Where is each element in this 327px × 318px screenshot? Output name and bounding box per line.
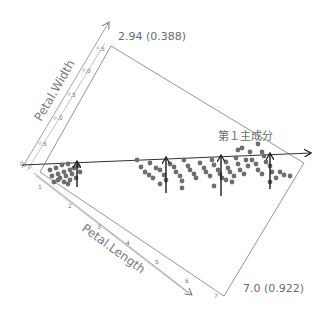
data-point xyxy=(224,178,229,183)
data-point xyxy=(78,170,83,175)
data-point xyxy=(208,174,213,179)
data-point xyxy=(180,179,185,184)
data-point xyxy=(66,182,71,187)
data-point xyxy=(264,160,269,165)
data-point xyxy=(174,170,179,175)
data-point xyxy=(48,168,53,173)
tick-label: 4 xyxy=(126,239,130,246)
petal-width-axis: 0 .5 .0 .5 .0 .5 Petal.Width xyxy=(20,22,109,171)
data-point xyxy=(60,163,65,168)
data-point xyxy=(70,172,75,177)
tick-label: 2 xyxy=(68,202,72,209)
data-points xyxy=(48,142,293,191)
data-point xyxy=(66,162,71,167)
data-point xyxy=(274,176,279,181)
data-point xyxy=(188,168,193,173)
data-point xyxy=(212,163,217,168)
data-point xyxy=(282,173,287,178)
data-point xyxy=(148,161,153,166)
data-point xyxy=(178,174,183,179)
data-point xyxy=(228,170,233,175)
data-point xyxy=(234,156,239,161)
petal-width-loading-label: 2.94 (0.388) xyxy=(118,30,186,43)
tick-label: .0 xyxy=(57,114,63,121)
data-point xyxy=(288,174,293,179)
tick-label: 1 xyxy=(38,183,42,190)
data-point xyxy=(64,174,69,179)
data-point xyxy=(210,158,215,163)
data-point xyxy=(182,158,187,163)
data-point xyxy=(244,158,249,163)
data-point xyxy=(50,174,55,179)
projection-arrows xyxy=(77,153,270,196)
tick-label: .5 xyxy=(70,91,76,98)
data-point xyxy=(198,161,203,166)
petal-length-axis-label: Petal.Length xyxy=(79,221,148,276)
data-point xyxy=(278,170,283,175)
tick-label: 7 xyxy=(214,292,218,299)
data-point xyxy=(172,165,177,170)
pc1-label: 第１主成分 xyxy=(218,129,273,143)
data-point xyxy=(248,150,253,155)
data-point xyxy=(256,142,261,147)
data-point xyxy=(158,182,163,187)
data-point xyxy=(260,172,265,177)
chart-svg: 0 .5 .0 .5 .0 .5 Petal.Width 1 2 xyxy=(0,0,327,318)
data-point xyxy=(151,176,156,181)
data-point xyxy=(143,170,148,175)
data-point xyxy=(242,172,247,177)
data-point xyxy=(139,165,144,170)
data-point xyxy=(194,176,199,181)
tick-label: 0 xyxy=(20,160,24,167)
data-point xyxy=(256,168,261,173)
tick-label: 5 xyxy=(155,258,159,265)
petal-length-ticks: 1 2 3 4 5 6 7 xyxy=(38,183,218,299)
data-point xyxy=(238,168,243,173)
data-point xyxy=(135,158,140,163)
tick-label: 6 xyxy=(185,277,189,284)
data-point xyxy=(52,180,57,185)
data-point xyxy=(240,146,245,151)
data-point xyxy=(230,180,235,185)
data-point xyxy=(204,170,209,175)
data-point xyxy=(168,162,173,167)
data-point xyxy=(212,184,217,189)
data-point xyxy=(54,166,59,171)
data-point xyxy=(158,168,163,173)
data-point xyxy=(232,174,237,179)
data-point xyxy=(260,150,265,155)
data-point xyxy=(180,186,185,191)
data-point xyxy=(147,173,152,178)
data-point xyxy=(236,162,241,167)
data-point xyxy=(246,164,251,169)
tick-label: .5 xyxy=(99,45,105,52)
pca-biplot: 0 .5 .0 .5 .0 .5 Petal.Width 1 2 xyxy=(0,0,327,318)
tick-label: .0 xyxy=(85,67,91,74)
petal-length-loading-label: 7.0 (0.922) xyxy=(243,282,304,295)
data-point xyxy=(250,158,255,163)
data-point xyxy=(254,162,259,167)
data-point xyxy=(224,160,229,165)
tick-label: .5 xyxy=(41,140,47,147)
